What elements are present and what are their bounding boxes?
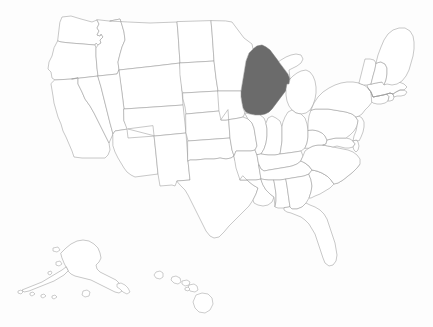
alaska-islet-nunivak [56, 261, 62, 266]
state-CO[interactable] [124, 105, 186, 138]
state-AK[interactable] [61, 240, 122, 293]
state-FL[interactable] [284, 203, 337, 266]
aleutian-islet-3 [41, 294, 46, 298]
us-map-svg [0, 0, 433, 327]
state-OR[interactable] [48, 41, 98, 80]
state-OH[interactable] [280, 110, 308, 154]
alaska-islet-stlawrence [53, 247, 60, 252]
states-layer [48, 16, 414, 266]
aleutian-islet-2 [30, 292, 35, 296]
us-map-container [0, 0, 433, 327]
hawaii-inset[interactable] [154, 271, 213, 313]
state-IA[interactable] [218, 91, 245, 120]
alaska-islet-kodiak [82, 290, 90, 297]
state-WY[interactable] [119, 63, 183, 109]
state-OK[interactable] [188, 138, 234, 161]
alaska-peninsula [22, 267, 68, 292]
alaska-inset[interactable] [18, 240, 130, 299]
state-WA[interactable] [58, 16, 103, 45]
state-HI-oahu[interactable] [171, 276, 181, 284]
state-HI-bigisland[interactable] [193, 293, 213, 313]
state-SD[interactable] [180, 61, 218, 93]
state-HI-maui[interactable] [188, 284, 198, 292]
aleutian-islet-4 [52, 295, 57, 299]
state-HI-kauai[interactable] [154, 271, 163, 279]
state-ND[interactable] [177, 21, 214, 63]
state-DE[interactable] [353, 140, 359, 152]
alaska-islet-pribilof [48, 271, 52, 275]
